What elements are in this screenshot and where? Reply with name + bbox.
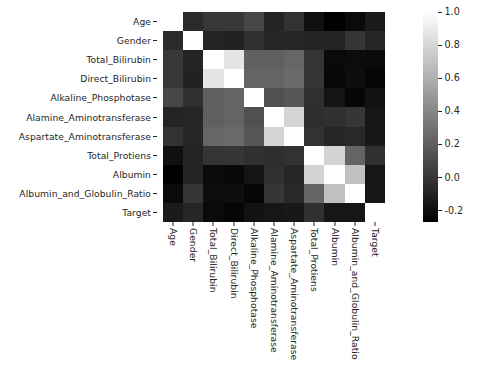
x-axis-tick-label: Direct_Bilirubin xyxy=(224,222,244,382)
y-axis-tick-mark xyxy=(153,117,157,118)
heatmap-cell xyxy=(365,107,385,126)
x-axis-tick-mark xyxy=(273,222,274,226)
y-axis-tick-labels: AgeGenderTotal_BilirubinDirect_Bilirubin… xyxy=(0,12,158,222)
x-axis-tick-text: Alkaline_Phosphotase xyxy=(248,228,259,329)
heatmap-cell xyxy=(203,127,223,146)
y-axis-tick-label: Total_Bilirubin xyxy=(0,50,158,69)
colorbar-tick-mark xyxy=(438,45,442,46)
heatmap-cell xyxy=(304,12,324,31)
heatmap-cell xyxy=(264,146,284,165)
heatmap-cell xyxy=(183,88,203,107)
x-axis-tick-text: Aspartate_Aminotransferase xyxy=(289,228,300,360)
heatmap-cell xyxy=(183,184,203,203)
y-axis-tick-mark xyxy=(153,21,157,22)
heatmap-cell xyxy=(365,88,385,107)
heatmap-cell xyxy=(284,146,304,165)
heatmap-cell xyxy=(304,203,324,222)
x-axis-tick-label: Albumin xyxy=(324,222,344,382)
heatmap-cell xyxy=(365,12,385,31)
y-axis-tick-text: Total_Protiens xyxy=(87,150,151,161)
heatmap-cell xyxy=(244,107,264,126)
y-axis-tick-label: Albumin_and_Globulin_Ratio xyxy=(0,184,158,203)
x-axis-tick-text: Direct_Bilirubin xyxy=(228,228,239,299)
x-axis-tick-text: Age xyxy=(168,228,179,246)
heatmap-cell xyxy=(284,165,304,184)
heatmap-cell xyxy=(264,31,284,50)
heatmap-cell xyxy=(163,184,183,203)
x-axis-tick-label: Target xyxy=(365,222,385,382)
heatmap-cell xyxy=(324,165,344,184)
x-axis-tick-labels: AgeGenderTotal_BilirubinDirect_Bilirubin… xyxy=(163,222,385,382)
colorbar-tick-mark xyxy=(438,12,442,13)
x-axis-tick-mark xyxy=(193,222,194,226)
y-axis-tick-mark xyxy=(153,78,157,79)
heatmap-cell xyxy=(244,184,264,203)
y-axis-tick-text: Albumin_and_Globulin_Ratio xyxy=(19,188,151,199)
colorbar-tick-labels: 1.00.80.60.40.20.0-0.2 xyxy=(438,12,479,222)
y-axis-tick-label: Alamine_Aminotransferase xyxy=(0,107,158,126)
heatmap-cell xyxy=(203,107,223,126)
heatmap-cell xyxy=(324,146,344,165)
heatmap-cell xyxy=(224,107,244,126)
heatmap-cell xyxy=(224,165,244,184)
x-axis-tick-label: Alamine_Aminotransferase xyxy=(264,222,284,382)
heatmap-cell xyxy=(183,146,203,165)
heatmap-cell xyxy=(284,107,304,126)
heatmap-cell xyxy=(304,184,324,203)
heatmap-cell xyxy=(324,12,344,31)
heatmap-cell xyxy=(163,50,183,69)
heatmap-cell xyxy=(304,127,324,146)
heatmap-cell xyxy=(284,184,304,203)
heatmap-cell xyxy=(304,165,324,184)
heatmap-cell xyxy=(324,50,344,69)
y-axis-tick-mark xyxy=(153,59,157,60)
heatmap-cell xyxy=(345,203,365,222)
x-axis-tick-mark xyxy=(294,222,295,226)
heatmap-cell xyxy=(224,12,244,31)
y-axis-tick-label: Albumin xyxy=(0,165,158,184)
heatmap-cell xyxy=(163,165,183,184)
x-axis-tick-mark xyxy=(173,222,174,226)
heatmap-cell xyxy=(244,50,264,69)
heatmap-cell xyxy=(183,127,203,146)
heatmap-cell xyxy=(345,31,365,50)
heatmap-cell xyxy=(304,50,324,69)
heatmap-cell xyxy=(264,127,284,146)
heatmap-cell xyxy=(345,12,365,31)
colorbar-tick-text: 1.0 xyxy=(445,7,460,17)
y-axis-tick-mark xyxy=(153,193,157,194)
heatmap-cell xyxy=(365,69,385,88)
heatmap-cell xyxy=(304,107,324,126)
heatmap-cell xyxy=(183,69,203,88)
y-axis-tick-label: Aspartate_Aminotransferase xyxy=(0,127,158,146)
heatmap-cell xyxy=(244,12,264,31)
y-axis-tick-text: Gender xyxy=(117,35,151,46)
heatmap-cell xyxy=(304,146,324,165)
heatmap-cell xyxy=(264,50,284,69)
y-axis-tick-text: Age xyxy=(133,16,151,27)
y-axis-tick-text: Alamine_Aminotransferase xyxy=(26,112,151,123)
heatmap-cell xyxy=(163,107,183,126)
heatmap-cell xyxy=(183,31,203,50)
colorbar-tick-text: 0.6 xyxy=(445,73,460,83)
heatmap-cell xyxy=(324,31,344,50)
heatmap-cell xyxy=(324,69,344,88)
heatmap-cell xyxy=(284,12,304,31)
heatmap-cell xyxy=(324,203,344,222)
x-axis-tick-label: Aspartate_Aminotransferase xyxy=(284,222,304,382)
heatmap-cell xyxy=(264,184,284,203)
heatmap-cell xyxy=(183,165,203,184)
heatmap-cell xyxy=(324,127,344,146)
x-axis-tick-text: Gender xyxy=(188,228,199,262)
heatmap-cell xyxy=(264,88,284,107)
heatmap-cell xyxy=(244,69,264,88)
y-axis-tick-mark xyxy=(153,40,157,41)
heatmap-cell xyxy=(183,203,203,222)
heatmap-cell xyxy=(163,127,183,146)
x-axis-tick-mark xyxy=(334,222,335,226)
heatmap-cell xyxy=(304,88,324,107)
colorbar-tick-text: 0.2 xyxy=(445,139,460,149)
colorbar-tick-mark xyxy=(438,210,442,211)
y-axis-tick-text: Alkaline_Phosphotase xyxy=(50,92,151,103)
heatmap-cell xyxy=(345,50,365,69)
